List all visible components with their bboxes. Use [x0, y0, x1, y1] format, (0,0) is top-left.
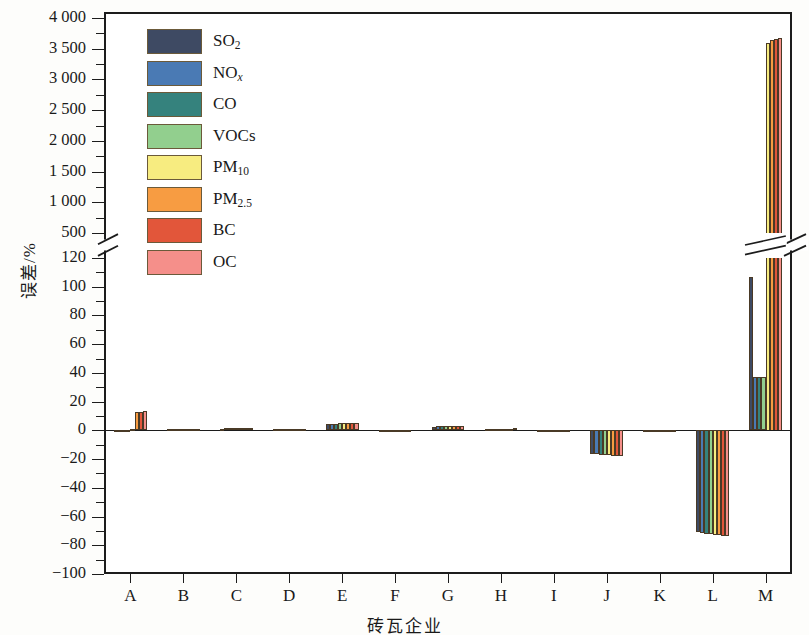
- y-axis-minor-tick: [96, 187, 104, 188]
- y-axis-major-tick: [92, 574, 104, 575]
- x-axis-tick: [766, 574, 767, 583]
- y-axis-tick-label: 100: [61, 278, 86, 295]
- bar: [407, 430, 411, 432]
- y-axis-major-tick: [92, 545, 104, 546]
- y-axis-minor-tick: [96, 95, 104, 96]
- y-axis-major-tick: [92, 315, 104, 316]
- y-axis-tick-label: 120: [61, 249, 86, 266]
- y-axis-major-tick: [92, 18, 104, 19]
- y-axis-major-tick: [92, 79, 104, 80]
- bar: [778, 38, 782, 233]
- legend-swatch: [147, 155, 202, 180]
- y-axis-tick-label: 20: [70, 393, 87, 410]
- x-axis-tick-label: I: [534, 586, 574, 606]
- y-axis-major-tick: [92, 373, 104, 374]
- y-axis-major-tick: [92, 459, 104, 460]
- legend-label: BC: [213, 217, 236, 243]
- y-axis-major-tick: [92, 430, 104, 431]
- y-axis-major-tick: [92, 141, 104, 142]
- legend-item[interactable]: BC: [147, 216, 347, 248]
- x-axis-tick-label: B: [163, 586, 203, 606]
- bar: [302, 429, 306, 431]
- legend-item[interactable]: PM10: [147, 153, 347, 185]
- legend-item[interactable]: PM2.5: [147, 185, 347, 217]
- x-axis-tick-label: A: [110, 586, 150, 606]
- y-axis-minor-tick: [96, 218, 104, 219]
- y-axis-minor-tick: [96, 272, 104, 273]
- y-axis-tick-label: −80: [60, 536, 86, 553]
- bar: [460, 426, 464, 431]
- x-axis-tick: [289, 574, 290, 583]
- y-axis-tick-label: 40: [70, 364, 87, 381]
- legend-swatch: [147, 92, 202, 117]
- legend-item[interactable]: SO2: [147, 27, 347, 59]
- legend-swatch: [147, 61, 202, 86]
- x-axis-tick: [395, 574, 396, 583]
- x-axis-tick: [554, 574, 555, 583]
- y-axis-tick-label: 500: [61, 224, 86, 241]
- bar: [354, 423, 358, 431]
- legend-item[interactable]: NOx: [147, 59, 347, 91]
- legend-swatch: [147, 250, 202, 275]
- y-axis-tick-label: 1 000: [49, 193, 86, 210]
- y-axis-tick-label: 80: [70, 306, 87, 323]
- bar: [196, 429, 200, 431]
- y-axis-tick-label: −20: [60, 450, 86, 467]
- y-axis-tick-label: 3 000: [49, 70, 86, 87]
- legend-label: NOx: [213, 60, 243, 87]
- x-axis-tick-label: C: [216, 586, 256, 606]
- y-axis-major-tick: [92, 49, 104, 50]
- legend-label: SO2: [213, 28, 240, 55]
- x-axis-tick-label: L: [693, 586, 733, 606]
- legend-swatch: [147, 29, 202, 54]
- y-axis-tick-label: −60: [60, 508, 86, 525]
- x-axis-tick-label: E: [322, 586, 362, 606]
- y-axis-tick-label: 2 000: [49, 132, 86, 149]
- legend-item[interactable]: CO: [147, 90, 347, 122]
- y-axis-major-tick: [92, 233, 104, 234]
- x-axis-tick-label: G: [428, 586, 468, 606]
- legend-label: PM2.5: [213, 186, 252, 213]
- legend-swatch: [147, 187, 202, 212]
- legend-item[interactable]: VOCs: [147, 122, 347, 154]
- legend-swatch: [147, 124, 202, 149]
- x-axis-tick: [130, 574, 131, 583]
- bar: [513, 428, 517, 430]
- x-axis-tick-label: M: [746, 586, 786, 606]
- x-axis-tick-label: K: [640, 586, 680, 606]
- x-axis-tick-label: D: [269, 586, 309, 606]
- x-axis-label: 砖瓦企业: [0, 612, 809, 635]
- y-axis-tick-label: 60: [70, 335, 87, 352]
- bar: [672, 430, 676, 432]
- y-axis-tick-label: 2 500: [49, 101, 86, 118]
- y-axis-minor-tick: [96, 502, 104, 503]
- y-axis-minor-tick: [96, 33, 104, 34]
- y-axis-major-tick: [92, 402, 104, 403]
- legend-label: CO: [213, 91, 237, 117]
- y-axis-minor-tick: [96, 156, 104, 157]
- y-axis-label: 误差/%: [15, 226, 40, 316]
- legend-item[interactable]: OC: [147, 248, 347, 280]
- y-axis-minor-tick: [96, 126, 104, 127]
- x-axis-tick-label: J: [587, 586, 627, 606]
- zero-baseline: [104, 430, 792, 431]
- y-axis-tick-label: −100: [52, 565, 86, 582]
- y-axis-minor-tick: [96, 416, 104, 417]
- x-axis-tick: [236, 574, 237, 583]
- x-axis-tick: [448, 574, 449, 583]
- bar: [725, 430, 729, 536]
- legend-label: PM10: [213, 154, 249, 181]
- chart-legend: SO2NOxCOVOCsPM10PM2.5BCOC: [147, 27, 347, 279]
- bar: [619, 430, 623, 456]
- x-axis-tick-label: H: [481, 586, 521, 606]
- y-axis-minor-tick: [96, 64, 104, 65]
- y-axis-tick-label: 1 500: [49, 163, 86, 180]
- bar: [249, 428, 253, 430]
- y-axis-major-tick: [92, 110, 104, 111]
- y-axis-minor-tick: [96, 330, 104, 331]
- x-axis-tick: [660, 574, 661, 583]
- chart-canvas: 误差/% 砖瓦企业 5001 0001 5002 0002 5003 0003 …: [0, 0, 809, 635]
- y-axis-minor-tick: [96, 359, 104, 360]
- bar: [566, 430, 570, 432]
- y-axis-minor-tick: [96, 301, 104, 302]
